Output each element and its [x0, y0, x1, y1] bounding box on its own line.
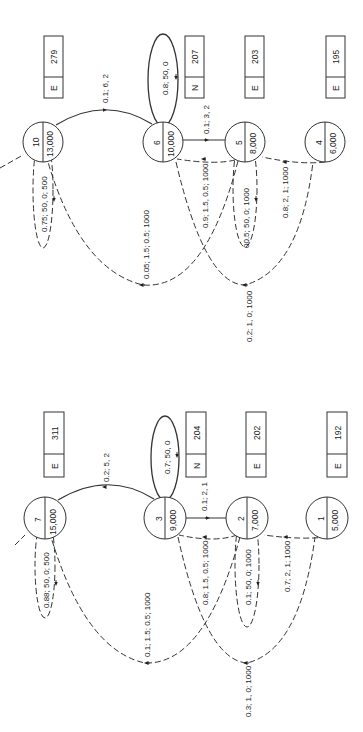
node-6-value: 10,000 [166, 131, 176, 157]
edge-label-10-6: 0.1; 6, 2 [101, 74, 110, 103]
edge-label-self-6: 0.8; 50, 0 [161, 61, 170, 95]
edge-label-self-10: 0.75; 50, 0; 500 [40, 176, 49, 232]
diagram-canvas: E 279 N 207 E 203 E 195 10 13,000 6 10,0… [0, 0, 363, 732]
node-2 [226, 497, 268, 539]
edge-label-6-5: 0.1; 3, 2 [202, 105, 211, 134]
node-2-id: 2 [236, 516, 246, 521]
node-10 [23, 122, 63, 162]
edge-label-5-6: 0.9; 1.5, 0.5; 1000 [201, 163, 210, 228]
box-bottom-3-type: E [252, 463, 262, 469]
edge-label-6-4: 0.2; 1, 0; 1000 [245, 290, 254, 342]
node-3-value: 9,000 [168, 509, 178, 531]
node-6-id: 6 [152, 140, 162, 145]
box-top-1-value: 279 [49, 50, 59, 64]
top-diagram [0, 34, 345, 285]
box-bottom-1-value: 311 [50, 426, 60, 440]
node-1-value: 5,000 [330, 509, 340, 531]
edge-label-2-3: 0.8; 1.5, 0.5; 1000 [201, 540, 210, 605]
edge-label-self-7: 0.88; 50, 0; 500 [42, 552, 51, 608]
edge-label-4-5: 0.8; 2, 1; 1000 [281, 166, 290, 218]
edge-label-self-3: 0.7; 50, 0 [163, 440, 172, 474]
box-top-2-type: N [190, 85, 200, 91]
node-7 [24, 497, 66, 539]
edge-label-5-10: 0.05; 1.5; 0.5; 1000 [142, 210, 151, 279]
node-3 [144, 497, 186, 539]
node-1 [306, 497, 348, 539]
edge-label-3-1: 0.3; 1, 0; 1000 [244, 665, 253, 717]
box-bottom-3-value: 202 [252, 426, 262, 440]
edge-label-7-3: 0.2; 5, 2 [102, 453, 111, 482]
node-3-id: 3 [154, 516, 164, 521]
node-4-id: 4 [314, 140, 324, 145]
edge-label-2-7: 0.1; 1.5; 0.5; 1000 [143, 592, 152, 657]
edge-label-self-2: 0.1; 50, 0; 1000 [244, 549, 253, 605]
bottom-diagram [15, 412, 348, 663]
box-top-3-type: E [250, 85, 260, 91]
box-bottom-2-type: N [192, 463, 202, 469]
edge-label-1-2: 0.7; 2, 1; 1000 [283, 540, 292, 592]
node-6 [143, 122, 183, 162]
box-bottom-2-value: 204 [192, 426, 202, 440]
top-labels: E 279 N 207 E 203 E 195 10 13,000 6 10,0… [31, 50, 341, 342]
node-2-value: 7,000 [250, 509, 260, 531]
box-top-4-type: E [331, 85, 341, 91]
bottom-labels: E 311 N 204 E 202 E 192 7 15,000 3 9,000… [33, 426, 343, 717]
node-4 [305, 122, 345, 162]
node-4-value: 6,000 [328, 132, 338, 154]
node-10-id: 10 [31, 137, 41, 147]
edge-label-3-2: 0.1; 2, 1 [200, 482, 209, 511]
box-bottom-4-value: 192 [333, 426, 343, 440]
node-5-value: 8,000 [248, 132, 258, 154]
node-1-id: 1 [316, 516, 326, 521]
node-10-value: 13,000 [45, 131, 55, 157]
edge-label-self-5: 00.5; 50, 0; 1000 [242, 187, 251, 248]
box-bottom-4-type: E [333, 463, 343, 469]
node-5 [225, 122, 265, 162]
node-7-id: 7 [33, 517, 43, 522]
node-5-id: 5 [234, 140, 244, 145]
box-top-3-value: 203 [250, 50, 260, 64]
box-top-4-value: 195 [331, 50, 341, 64]
node-7-value: 15,000 [48, 509, 58, 535]
box-top-2-value: 207 [190, 50, 200, 64]
box-top-1-type: E [49, 85, 59, 91]
box-bottom-1-type: E [50, 463, 60, 469]
